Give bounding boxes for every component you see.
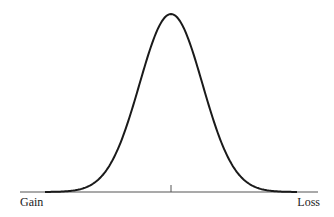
gain-label: Gain: [20, 196, 43, 208]
bell-curve: [45, 14, 297, 192]
loss-label: Loss: [297, 196, 320, 208]
distribution-chart: [0, 0, 334, 217]
